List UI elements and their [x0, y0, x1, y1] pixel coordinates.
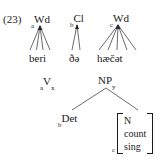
example-number: (23): [3, 14, 21, 25]
feature-category: N: [124, 114, 146, 127]
syntax-tree-figure: (23) aWd bCl cWd beri ðə hæčət aVx NPy b…: [0, 0, 165, 164]
index-b-det: b: [58, 121, 62, 129]
syntactic-node-v: aVx: [40, 76, 55, 90]
terminal-word-the: ðə: [69, 53, 79, 64]
feature-count: count: [124, 127, 146, 140]
syntactic-node-np-label: NP: [98, 74, 112, 86]
terminal-word-beri: beri: [29, 53, 46, 64]
syntactic-node-det-label: Det: [62, 112, 78, 124]
noun-feature-matrix: N count sing: [117, 113, 153, 154]
prosodic-node-cl-b: bCl: [70, 13, 84, 27]
terminal-word-hat: hæčət: [97, 53, 123, 64]
index-a-verb: a: [40, 84, 43, 92]
syntactic-node-det: bDet: [58, 113, 77, 127]
index-c-noun: c: [112, 146, 115, 154]
feature-list: N count sing: [123, 113, 147, 154]
fan-wd-c: [99, 24, 136, 50]
np-branches: [72, 88, 138, 110]
prosodic-node-wd-c: cWd: [110, 13, 129, 27]
subscript-y: y: [112, 83, 116, 91]
feature-number: sing: [124, 140, 146, 153]
syntactic-node-np: NPy: [98, 75, 116, 89]
index-a: a: [31, 22, 34, 30]
syntactic-node-v-label: V: [43, 75, 51, 87]
prosodic-node-wd-a-label: Wd: [34, 13, 50, 25]
prosodic-node-wd-a: aWd: [31, 14, 50, 28]
prosodic-node-wd-c-label: Wd: [113, 12, 129, 24]
subscript-x: x: [51, 84, 55, 92]
index-b: b: [70, 21, 74, 29]
prosodic-node-cl-b-label: Cl: [74, 12, 84, 24]
index-c: c: [110, 21, 113, 29]
bracket-right: [147, 113, 153, 154]
